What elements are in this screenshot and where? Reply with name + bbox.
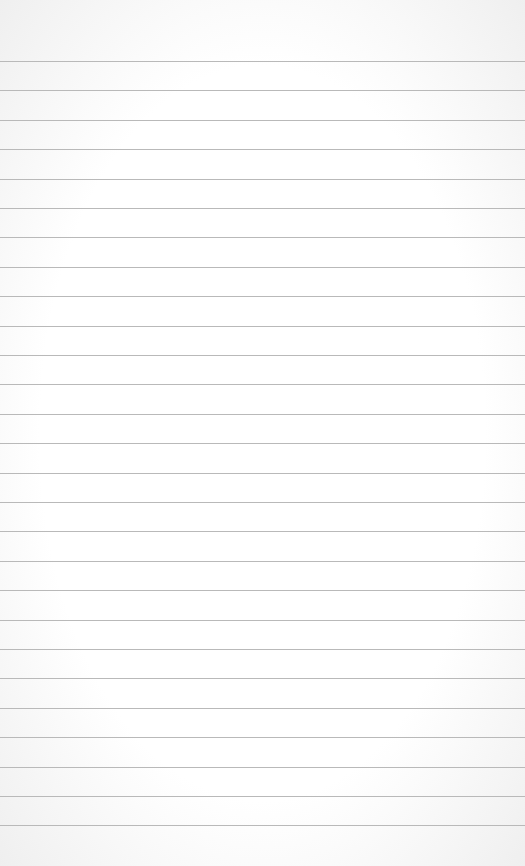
ruled-line (0, 208, 525, 209)
ruled-line (0, 326, 525, 327)
ruled-line (0, 796, 525, 797)
ruled-line (0, 737, 525, 738)
ruled-line (0, 531, 525, 532)
ruled-line (0, 120, 525, 121)
ruled-line (0, 267, 525, 268)
ruled-line (0, 473, 525, 474)
ruled-line (0, 678, 525, 679)
ruled-line (0, 237, 525, 238)
ruled-line (0, 443, 525, 444)
ruled-line (0, 767, 525, 768)
ruled-line (0, 296, 525, 297)
ruled-line (0, 502, 525, 503)
lined-paper (0, 0, 525, 866)
ruled-line (0, 620, 525, 621)
ruled-line (0, 149, 525, 150)
ruled-line (0, 590, 525, 591)
ruled-line (0, 708, 525, 709)
ruled-line (0, 649, 525, 650)
ruled-line (0, 414, 525, 415)
ruled-line (0, 384, 525, 385)
ruled-line (0, 825, 525, 826)
ruled-line (0, 179, 525, 180)
ruled-line (0, 90, 525, 91)
ruled-line (0, 355, 525, 356)
ruled-line (0, 61, 525, 62)
ruled-line (0, 561, 525, 562)
